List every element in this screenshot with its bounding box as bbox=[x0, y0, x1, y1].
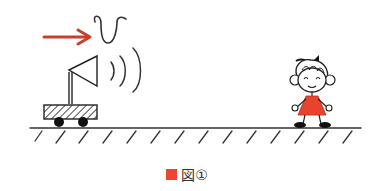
diagram-illustration bbox=[0, 0, 374, 191]
cart bbox=[44, 105, 97, 127]
wheel-icon bbox=[54, 117, 64, 127]
velocity-symbol bbox=[94, 16, 126, 43]
speaker-icon bbox=[69, 56, 97, 104]
velocity-arrow-icon bbox=[44, 30, 90, 44]
red-square-icon bbox=[166, 169, 177, 180]
figure-label: 図① bbox=[181, 164, 208, 184]
ground bbox=[30, 128, 361, 143]
figure-caption: 図① bbox=[0, 164, 374, 184]
girl-figure bbox=[290, 55, 335, 128]
wheel-icon bbox=[78, 117, 88, 127]
sound-waves-icon bbox=[111, 48, 141, 92]
